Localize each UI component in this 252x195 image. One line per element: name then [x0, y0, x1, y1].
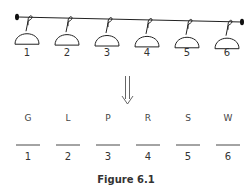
hanger-number: 4 — [144, 47, 150, 58]
slot-letter: L — [65, 113, 70, 123]
hanger-diagram: 123456 G1L2P3R4S5W6 — [0, 0, 252, 195]
hanger-number: 2 — [64, 47, 70, 58]
slot-letter: P — [105, 113, 111, 123]
slot: S5 — [176, 113, 200, 162]
slot-number: 3 — [105, 151, 111, 162]
hanger: 5 — [175, 19, 199, 58]
slot: L2 — [56, 113, 80, 162]
figure-caption: Figure 6.1 — [0, 174, 252, 185]
hanger: 2 — [55, 17, 79, 58]
hangers: 123456 — [15, 16, 239, 58]
hanger-body — [55, 35, 79, 45]
hanger-number: 1 — [24, 47, 30, 58]
rod-end-left — [15, 14, 19, 20]
hanger-number: 6 — [224, 47, 230, 58]
clothes-rod — [18, 17, 242, 22]
hanger: 6 — [215, 20, 239, 58]
slot-number: 5 — [185, 151, 191, 162]
slot-letter: G — [25, 113, 32, 123]
slot-number: 1 — [25, 151, 31, 162]
hanger-number: 5 — [184, 47, 190, 58]
hanger: 4 — [135, 18, 159, 58]
slot: G1 — [16, 113, 40, 162]
rod-end-right — [240, 19, 244, 25]
hanger-body — [95, 36, 119, 47]
hanger-body — [15, 34, 39, 45]
hanger-number: 3 — [104, 47, 110, 58]
slot-letter: S — [185, 113, 191, 123]
slot: W6 — [216, 113, 240, 162]
double-down-arrow-icon — [122, 76, 133, 104]
slot-number: 6 — [225, 151, 231, 162]
slot-number: 2 — [65, 151, 71, 162]
slot-letter: R — [145, 113, 151, 123]
slot-number: 4 — [145, 151, 151, 162]
slots: G1L2P3R4S5W6 — [16, 113, 240, 162]
slot: R4 — [136, 113, 160, 162]
hanger: 3 — [95, 18, 119, 58]
hanger-body — [135, 36, 159, 47]
slot: P3 — [96, 113, 120, 162]
slot-letter: W — [224, 113, 233, 123]
hanger: 1 — [15, 16, 39, 58]
